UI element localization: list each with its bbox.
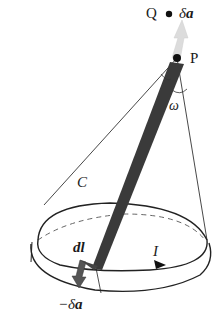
l-symbol: l — [81, 239, 85, 255]
curve-c-lower — [31, 243, 211, 291]
label-dl: dl — [73, 240, 85, 255]
label-curve-c: C — [77, 175, 87, 190]
label-minus-delta-a: −δa — [58, 297, 83, 312]
d-symbol: d — [73, 239, 81, 255]
faint-displacement-arrow — [172, 20, 188, 60]
delta-symbol: δ — [179, 5, 186, 21]
label-q: Q — [146, 6, 157, 21]
vector-a-bottom: a — [75, 296, 83, 312]
current-arrowhead — [154, 260, 166, 269]
solid-angle-diagram: Q δa P ω C dl I −δa — [0, 0, 219, 324]
cone-right-line — [177, 58, 207, 240]
label-current-i: I — [153, 244, 158, 259]
label-delta-a-top: δa — [179, 6, 193, 21]
label-omega: ω — [169, 99, 179, 113]
vector-a: a — [186, 5, 194, 21]
point-q-dot — [166, 11, 172, 17]
element-edge-line — [96, 268, 101, 293]
thick-vector-arrow — [92, 54, 184, 270]
angle-arc-omega — [172, 89, 187, 93]
diagram-canvas — [0, 0, 219, 324]
label-p: P — [190, 51, 198, 66]
minus-delta-symbol: −δ — [58, 296, 75, 312]
